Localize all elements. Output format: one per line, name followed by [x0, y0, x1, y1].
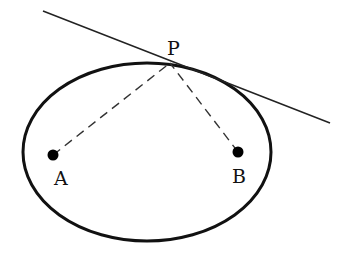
label-p: P [167, 37, 180, 59]
ellipse-diagram: P A B [0, 0, 345, 256]
label-a: A [53, 167, 68, 189]
tangent-line [43, 11, 330, 123]
dashed-line-a-to-p [53, 63, 170, 155]
dashed-line-b-to-p [170, 63, 238, 152]
focus-point-a [48, 150, 59, 161]
label-b: B [232, 165, 246, 187]
focus-point-b [233, 147, 244, 158]
